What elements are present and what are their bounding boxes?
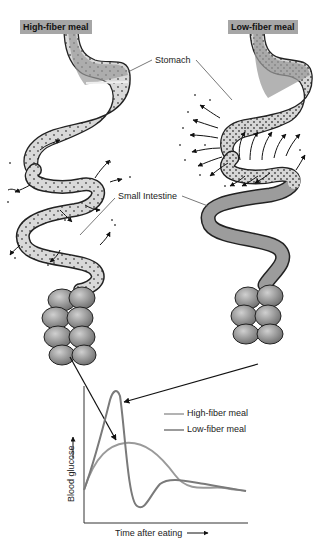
high-fiber-curve bbox=[84, 443, 246, 491]
label-small-intestine: Small Intestine bbox=[118, 191, 177, 201]
label-stomach: Stomach bbox=[155, 55, 191, 65]
right-large-intestine bbox=[231, 285, 283, 344]
stomach-leader-left bbox=[128, 60, 152, 72]
y-axis-label: Blood glucose bbox=[66, 445, 76, 502]
panel-title-low-fiber: Low-fiber meal bbox=[228, 20, 298, 34]
left-stomach bbox=[24, 28, 130, 175]
pointer-low-fiber bbox=[124, 364, 258, 402]
pointer-high-fiber bbox=[70, 357, 116, 440]
legend-high-fiber: High-fiber meal bbox=[187, 408, 248, 418]
panel-title-high-fiber: High-fiber meal bbox=[20, 20, 92, 34]
digestion-diagram bbox=[0, 0, 316, 546]
x-axis-label: Time after eating bbox=[115, 528, 182, 538]
left-large-intestine bbox=[42, 287, 96, 365]
legend-low-fiber: Low-fiber meal bbox=[187, 424, 246, 434]
stomach-leader-right bbox=[196, 60, 232, 100]
intestine-leader-right bbox=[182, 196, 208, 206]
